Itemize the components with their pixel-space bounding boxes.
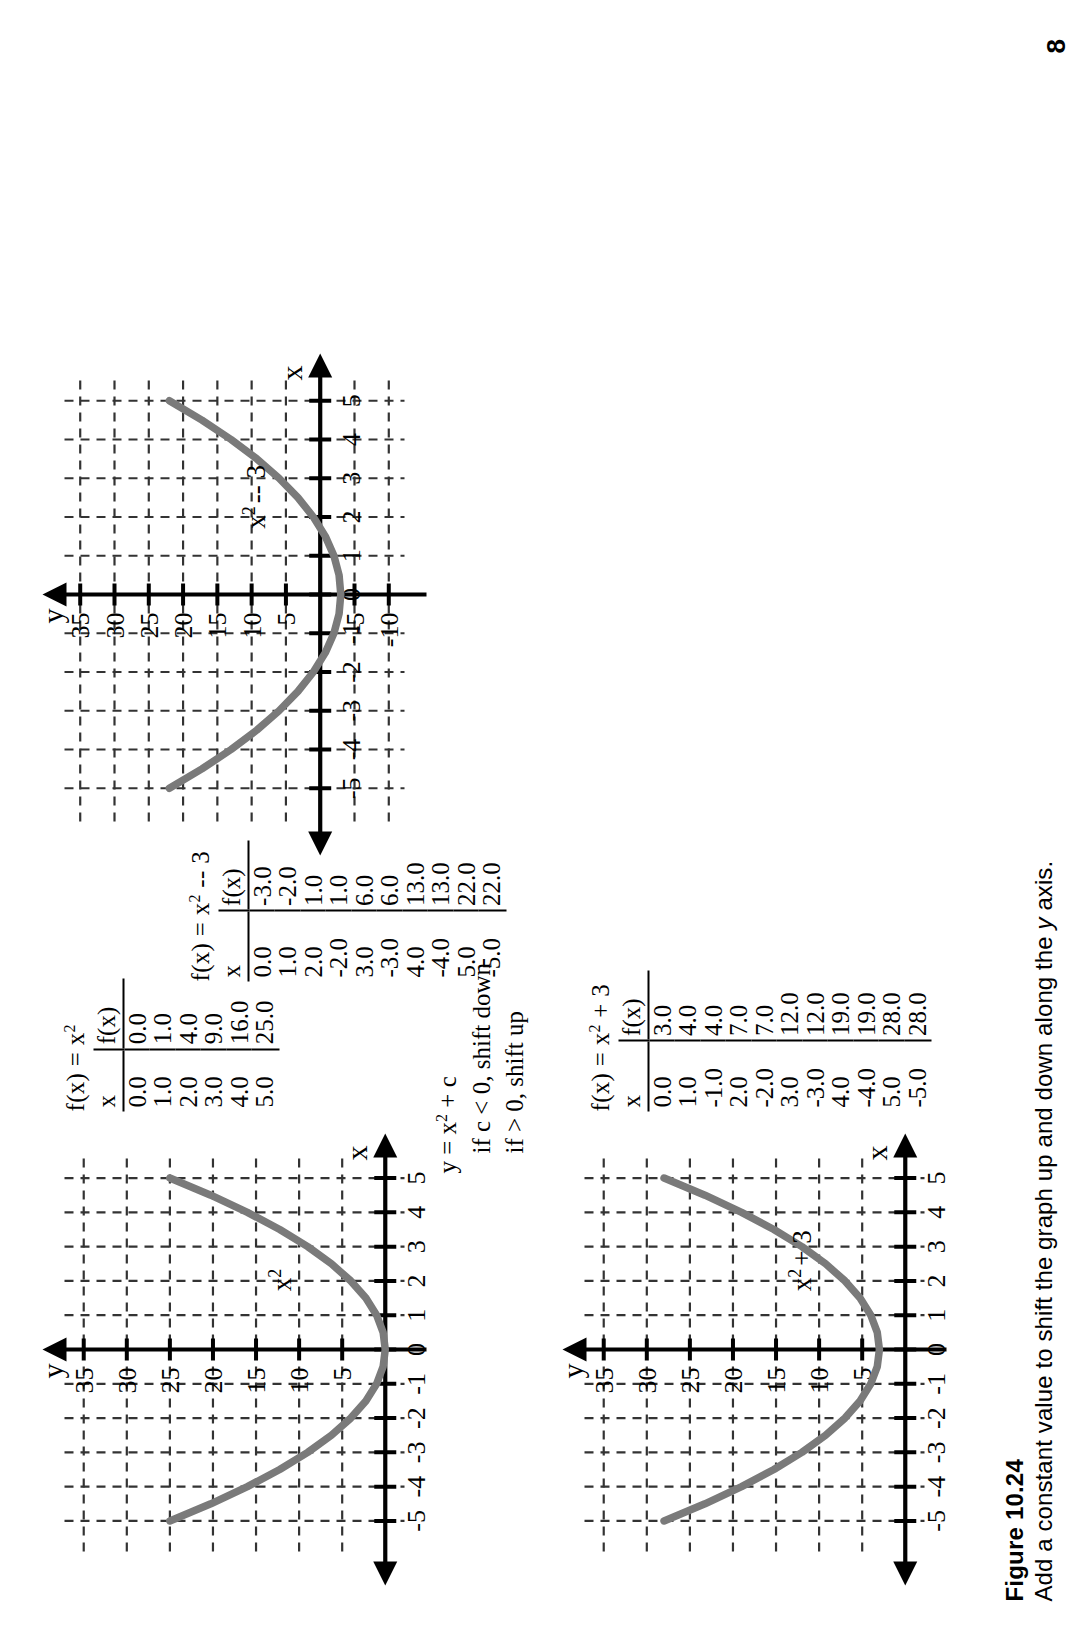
svg-text:-4: -4 (337, 738, 366, 760)
note-line-shift-down: if c < 0, shift down (464, 963, 498, 1173)
svg-text:5: 5 (922, 1171, 951, 1184)
cell-x: -5.0 (904, 1040, 932, 1111)
page-number: 8 (1040, 39, 1071, 53)
cell-fx: 28.0 (878, 970, 904, 1041)
column-header-fx: f(x) (218, 840, 248, 911)
cell-fx: 16.0 (226, 978, 252, 1049)
figure-caption: Figure 10.24 Add a constant value to shi… (1000, 860, 1057, 1601)
svg-text:10: 10 (805, 1367, 834, 1393)
table-row: 1.0-2.0 (274, 840, 300, 981)
svg-text:30: 30 (100, 612, 129, 638)
cell-fx: 4.0 (674, 970, 700, 1041)
cell-x: 3.0 (200, 1049, 226, 1111)
graph-x-squared: -5-4-3-2-10123455101520253035yxx2 (40, 1131, 460, 1601)
table-row: 0.00.0 (123, 978, 150, 1111)
cell-x: 0.0 (123, 1049, 150, 1111)
cell-x: 0.0 (248, 910, 275, 981)
cell-fx: 12.0 (802, 970, 828, 1041)
svg-text:25: 25 (155, 1367, 184, 1393)
cell-fx: 1.0 (325, 840, 351, 911)
svg-text:5: 5 (337, 394, 366, 407)
svg-text:1: 1 (402, 1308, 431, 1321)
cell-x: 3.0 (351, 910, 377, 981)
cell-fx: 1.0 (149, 978, 175, 1049)
table-row: 0.0-3.0 (248, 840, 275, 981)
cell-x: 1.0 (674, 1040, 700, 1111)
table-x-squared-plus-3-grid: x f(x) 0.03.01.04.0-1.04.02.07.0-2.07.03… (618, 970, 931, 1111)
column-header-x: x (93, 1049, 123, 1111)
cell-fx: 28.0 (904, 970, 932, 1041)
cell-x: 5.0 (878, 1040, 904, 1111)
table-x-squared-title: f(x) = x2 (60, 978, 89, 1111)
cell-fx: 19.0 (853, 970, 879, 1041)
table-body: 0.03.01.04.0-1.04.02.07.0-2.07.03.012.0-… (648, 970, 932, 1111)
svg-text:x2+ 3: x2+ 3 (784, 1230, 816, 1291)
table-row: 2.07.0 (725, 970, 751, 1111)
svg-text:-2: -2 (337, 661, 366, 683)
svg-text:-5: -5 (337, 777, 366, 799)
table-row: 3.012.0 (776, 970, 802, 1111)
table-row: 3.09.0 (200, 978, 226, 1111)
cell-fx: 19.0 (827, 970, 853, 1041)
table-row: 1.01.0 (149, 978, 175, 1111)
cell-x: -2.0 (325, 910, 351, 981)
caption-part-before: Add a constant value to shift the graph … (1029, 929, 1056, 1601)
cell-fx: 6.0 (351, 840, 377, 911)
svg-text:0: 0 (402, 1343, 431, 1356)
table-title-suffix: -- 3 (186, 851, 213, 894)
table-row: -3.012.0 (802, 970, 828, 1111)
svg-text:-4: -4 (922, 1475, 951, 1497)
table-row: -4.013.0 (427, 840, 453, 981)
cell-x: 2.0 (175, 1049, 201, 1111)
svg-text:20: 20 (169, 612, 198, 638)
svg-text:-5: -5 (340, 612, 369, 634)
svg-text:x: x (340, 1145, 373, 1160)
graph-x-squared-minus-3: -5-4-3-2-1012345-10-55101520253035yxx2--… (40, 351, 460, 871)
table-row: 5.025.0 (251, 978, 279, 1111)
cell-fx: -2.0 (274, 840, 300, 911)
cell-x: -3.0 (376, 910, 402, 981)
table-x-squared: f(x) = x2 x f(x) 0.00.01.01.02.04.03.09.… (60, 978, 279, 1111)
column-header-fx: f(x) (618, 970, 648, 1041)
table-row: 4.019.0 (827, 970, 853, 1111)
table-row: 0.03.0 (648, 970, 675, 1111)
svg-text:2: 2 (922, 1274, 951, 1287)
column-header-fx: f(x) (93, 978, 123, 1049)
svg-text:-3: -3 (402, 1441, 431, 1463)
svg-text:5: 5 (328, 1367, 357, 1380)
svg-text:10: 10 (285, 1367, 314, 1393)
table-x-squared-minus-3-grid: x f(x) 0.0-3.01.0-2.02.01.0-2.01.03.06.0… (218, 840, 506, 981)
figure-canvas: -5-4-3-2-10123455101520253035yxx2 f(x) =… (0, 0, 1091, 1641)
svg-text:-3: -3 (922, 1441, 951, 1463)
table-row: -5.028.0 (904, 970, 932, 1111)
svg-text:2: 2 (337, 510, 366, 523)
column-header-x: x (218, 910, 248, 981)
svg-text:20: 20 (718, 1367, 747, 1393)
cell-x: 4.0 (827, 1040, 853, 1111)
svg-text:-3: -3 (337, 699, 366, 721)
svg-text:25: 25 (134, 612, 163, 638)
cell-x: 2.0 (300, 910, 326, 981)
table-body: 0.0-3.01.0-2.02.01.0-2.01.03.06.0-3.06.0… (248, 840, 506, 981)
table-row: -2.01.0 (325, 840, 351, 981)
table-title-text: f(x) = x (586, 1032, 613, 1111)
table-row: 5.022.0 (453, 840, 479, 981)
svg-text:2: 2 (402, 1274, 431, 1287)
svg-text:15: 15 (762, 1367, 791, 1393)
table-title-exponent: 2 (185, 894, 202, 902)
shift-rule-note: y = x2 + c if c < 0, shift down if > 0, … (430, 963, 531, 1173)
svg-text:35: 35 (66, 612, 95, 638)
cell-x: 0.0 (648, 1040, 675, 1111)
svg-text:4: 4 (402, 1205, 431, 1218)
graph-x-squared-plus-3: -5-4-3-2-10123455101520253035yxx2+ 3 (560, 1131, 980, 1601)
cell-x: 2.0 (725, 1040, 751, 1111)
svg-text:15: 15 (203, 612, 232, 638)
table-head: x f(x) (93, 978, 123, 1111)
table-row: 3.06.0 (351, 840, 377, 981)
cell-x: -3.0 (802, 1040, 828, 1111)
svg-text:-1: -1 (402, 1372, 431, 1394)
figure-number: Figure 10.24 (1000, 860, 1028, 1601)
svg-text:-5: -5 (922, 1510, 951, 1532)
table-title-text: f(x) = x (61, 1032, 88, 1111)
graph-x-squared-plus-3-svg: -5-4-3-2-10123455101520253035yxx2+ 3 (560, 1131, 980, 1601)
